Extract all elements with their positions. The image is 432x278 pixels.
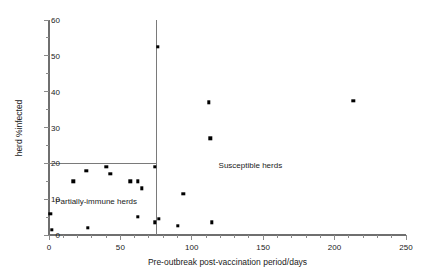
- x-tick-label-50: 50: [116, 243, 125, 252]
- data-point: [182, 192, 185, 195]
- data-point: [136, 215, 139, 218]
- x-tick-label-250: 250: [399, 243, 413, 252]
- region-label-0: Partially-immune herds: [55, 196, 137, 205]
- data-point: [140, 187, 143, 190]
- data-point: [153, 221, 156, 224]
- y-tick-label-50: 50: [40, 51, 60, 60]
- y-tick-label-40: 40: [40, 87, 60, 96]
- x-axis-title: Pre-outbreak post-vaccination period/day…: [148, 257, 307, 267]
- y-axis-title: herd %infected: [14, 99, 24, 156]
- data-point: [49, 212, 52, 215]
- region-label-1: Susceptible herds: [219, 161, 283, 170]
- y-tick-label-60: 60: [40, 16, 60, 25]
- data-point: [156, 45, 159, 48]
- chart-axes: [0, 0, 432, 278]
- data-point: [157, 217, 160, 220]
- data-point: [86, 226, 89, 229]
- y-tick-label-30: 30: [40, 123, 60, 132]
- data-point: [109, 172, 112, 175]
- data-point: [207, 101, 210, 104]
- data-point: [153, 165, 156, 168]
- x-tick-label-150: 150: [256, 243, 270, 252]
- data-point: [104, 165, 107, 168]
- y-tick-label-20: 20: [40, 159, 60, 168]
- data-point: [351, 99, 354, 102]
- x-tick-label-0: 0: [47, 243, 52, 252]
- y-tick-label-0: 0: [40, 231, 60, 240]
- data-point: [210, 221, 213, 224]
- data-point: [176, 224, 179, 227]
- data-point: [84, 169, 87, 172]
- data-point: [136, 180, 139, 183]
- data-point: [209, 137, 212, 140]
- data-point: [72, 180, 75, 183]
- scatter-chart: 0102030405060050100150200250Partially-im…: [0, 0, 432, 278]
- x-tick-label-200: 200: [328, 243, 342, 252]
- data-point: [129, 180, 132, 183]
- x-tick-label-100: 100: [185, 243, 199, 252]
